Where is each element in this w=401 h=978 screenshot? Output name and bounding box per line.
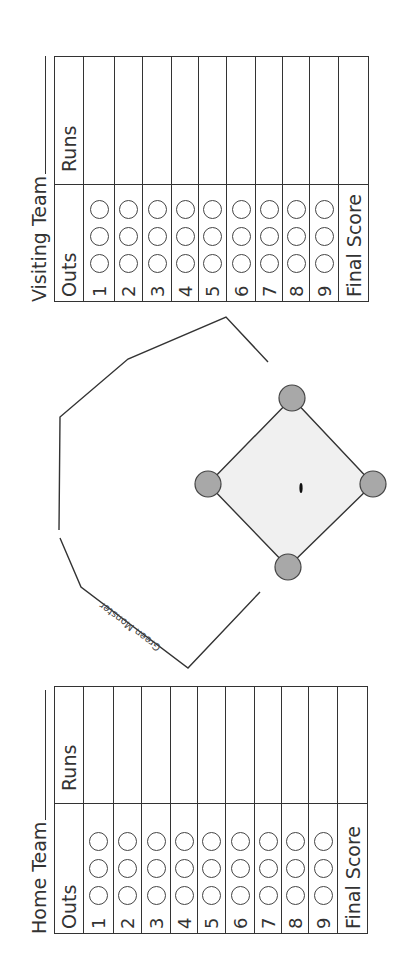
out-circle[interactable] [90,227,109,246]
out-circle[interactable] [119,200,138,219]
out-circle[interactable] [259,859,278,878]
home-team-title: Home Team [28,690,50,934]
inning-row: 2 [114,57,142,301]
out-circle[interactable] [89,886,108,905]
runs-cell[interactable] [84,57,114,184]
visiting-team-name-line[interactable] [45,56,46,174]
out-circle[interactable] [118,859,137,878]
final-score-cell[interactable] [339,57,368,184]
out-circle[interactable] [287,254,306,273]
pitchers-mound-icon [299,483,302,493]
final-score-cell[interactable] [338,687,367,803]
out-circle[interactable] [315,200,334,219]
out-circle[interactable] [260,200,279,219]
out-circle[interactable] [232,254,251,273]
runs-cell[interactable] [115,57,142,184]
inning-row: 7 [254,687,281,933]
inning-row: 6 [225,687,254,933]
visiting-score-grid: Outs Runs 1 2 3 4 [54,56,369,302]
out-circle[interactable] [231,859,250,878]
runs-cell[interactable] [226,687,254,803]
runs-cell[interactable] [282,687,308,803]
home-team-scorecard: Home Team Outs Runs 1 2 3 [28,686,342,934]
runs-header: Runs [55,57,83,184]
outfield-wall-upper [59,317,268,530]
out-circle[interactable] [231,886,250,905]
runs-cell[interactable] [143,57,171,184]
out-circle[interactable] [314,886,333,905]
out-circle[interactable] [315,254,334,273]
out-circle[interactable] [148,254,167,273]
out-circle[interactable] [260,254,279,273]
out-circle[interactable] [203,200,222,219]
out-circle[interactable] [119,227,138,246]
out-circle[interactable] [148,200,167,219]
final-score-row: Final Score [338,57,368,301]
out-circle[interactable] [232,227,251,246]
out-circle[interactable] [176,254,195,273]
out-circle[interactable] [202,886,221,905]
out-circle[interactable] [286,886,305,905]
inning-number: 1 [88,911,109,929]
out-circle[interactable] [176,200,195,219]
inning-number: 9 [314,279,335,297]
runs-cell[interactable] [142,687,170,803]
out-circle[interactable] [119,254,138,273]
runs-cell[interactable] [84,687,113,803]
out-circle[interactable] [90,254,109,273]
home-score-grid: Outs Runs 1 2 3 4 [54,686,368,934]
inning-number: 8 [285,911,306,929]
out-circle[interactable] [287,200,306,219]
out-circle[interactable] [315,227,334,246]
home-team-name-line[interactable] [45,690,46,820]
out-circle[interactable] [202,832,221,851]
runs-cell[interactable] [198,687,225,803]
green-monster-label: Green Monster [96,600,162,654]
runs-cell[interactable] [172,57,198,184]
inning-number: 3 [146,911,167,929]
out-circle[interactable] [175,859,194,878]
out-circle[interactable] [314,859,333,878]
inning-row: 9 [309,57,338,301]
runs-cell[interactable] [309,687,337,803]
out-circle[interactable] [202,859,221,878]
out-circle[interactable] [260,227,279,246]
out-circle[interactable] [259,832,278,851]
out-circle[interactable] [90,200,109,219]
outs-header: Outs [55,803,83,933]
out-circle[interactable] [232,200,251,219]
runs-cell[interactable] [171,687,197,803]
out-circle[interactable] [89,859,108,878]
runs-cell[interactable] [256,57,282,184]
out-circle[interactable] [203,254,222,273]
out-circle[interactable] [118,832,137,851]
runs-cell[interactable] [255,687,281,803]
out-circle[interactable] [147,859,166,878]
out-circle[interactable] [147,886,166,905]
inning-number: 5 [202,279,223,297]
inning-row: 8 [281,687,308,933]
outs-header: Outs [55,184,83,301]
inning-number: 2 [118,279,139,297]
third-base-icon [195,471,221,497]
runs-cell[interactable] [199,57,226,184]
out-circle[interactable] [118,886,137,905]
out-circle[interactable] [175,886,194,905]
out-circle[interactable] [286,859,305,878]
runs-cell[interactable] [227,57,255,184]
out-circle[interactable] [148,227,167,246]
out-circle[interactable] [89,832,108,851]
out-circle[interactable] [259,886,278,905]
out-circle[interactable] [287,227,306,246]
out-circle[interactable] [314,832,333,851]
inning-row: 6 [226,57,255,301]
out-circle[interactable] [286,832,305,851]
runs-cell[interactable] [283,57,309,184]
runs-cell[interactable] [310,57,338,184]
out-circle[interactable] [231,832,250,851]
out-circle[interactable] [203,227,222,246]
out-circle[interactable] [147,832,166,851]
out-circle[interactable] [175,832,194,851]
runs-cell[interactable] [114,687,141,803]
out-circle[interactable] [176,227,195,246]
